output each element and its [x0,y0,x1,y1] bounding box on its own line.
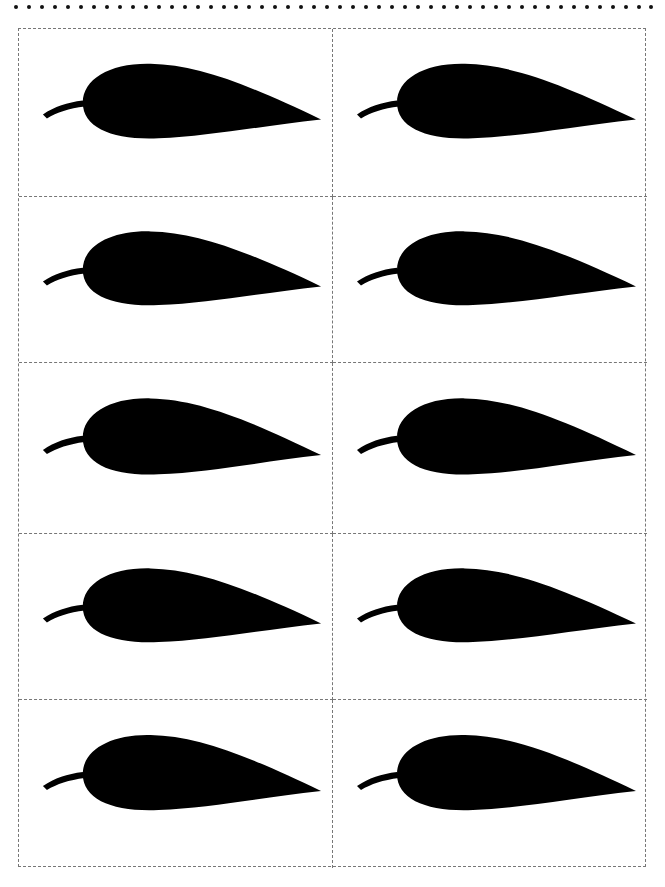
leaf-card-grid [18,28,646,867]
leaf-card [333,363,647,534]
separator-dot [442,5,446,9]
separator-dot [494,5,498,9]
separator-dot [170,5,174,9]
separator-dot [649,5,653,9]
separator-dot [105,5,109,9]
separator-dot [234,5,238,9]
separator-dot [222,5,226,9]
separator-dot [351,5,355,9]
leaf-icon [19,700,332,868]
separator-dot [533,5,537,9]
separator-dot [598,5,602,9]
leaf-card [333,534,647,700]
separator-dot [131,5,135,9]
separator-dot [92,5,96,9]
separator-dot [637,5,641,9]
separator-dot [481,5,485,9]
separator-dot [338,5,342,9]
separator-dot [325,5,329,9]
separator-dot [144,5,148,9]
separator-dot [299,5,303,9]
leaf-icon [333,700,647,868]
leaf-icon [333,197,647,362]
separator-dot [118,5,122,9]
separator-dot [455,5,459,9]
separator-dot [364,5,368,9]
separator-dot [403,5,407,9]
separator-dot [53,5,57,9]
separator-dot [196,5,200,9]
separator-dot [247,5,251,9]
dotted-separator [14,3,654,11]
separator-dot [572,5,576,9]
separator-dot [157,5,161,9]
separator-dot [79,5,83,9]
leaf-card [19,29,333,197]
separator-dot [40,5,44,9]
leaf-icon [19,534,332,699]
separator-dot [585,5,589,9]
separator-dot [468,5,472,9]
leaf-icon [19,29,332,196]
separator-dot [559,5,563,9]
leaf-icon [333,29,647,196]
separator-dot [183,5,187,9]
separator-dot [209,5,213,9]
separator-dot [27,5,31,9]
leaf-card [333,700,647,868]
separator-dot [66,5,70,9]
separator-dot [390,5,394,9]
separator-dot [429,5,433,9]
separator-dot [546,5,550,9]
leaf-icon [333,363,647,533]
separator-dot [286,5,290,9]
separator-dot [611,5,615,9]
leaf-card [333,29,647,197]
separator-dot [377,5,381,9]
leaf-card [19,197,333,363]
separator-dot [520,5,524,9]
separator-dot [507,5,511,9]
leaf-icon [333,534,647,699]
leaf-card [333,197,647,363]
separator-dot [416,5,420,9]
separator-dot [14,5,18,9]
leaf-card [19,363,333,534]
leaf-card [19,534,333,700]
leaf-card [19,700,333,868]
separator-dot [624,5,628,9]
separator-dot [260,5,264,9]
leaf-icon [19,363,332,533]
separator-dot [273,5,277,9]
leaf-icon [19,197,332,362]
separator-dot [312,5,316,9]
